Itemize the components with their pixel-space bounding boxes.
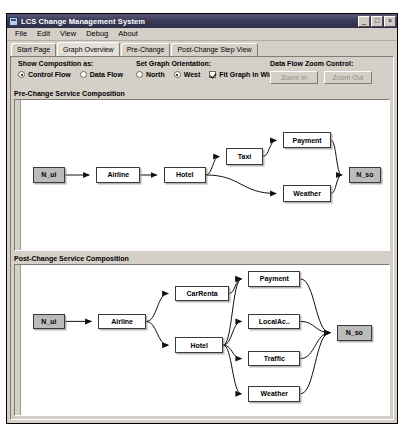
graph-edge — [300, 279, 330, 333]
app-icon — [9, 17, 18, 26]
application-window: LCS Change Management System _ □ × File … — [6, 13, 398, 424]
window-title: LCS Change Management System — [21, 17, 357, 26]
menu-item-file[interactable]: File — [10, 28, 32, 40]
graph-node-pre-hotel[interactable]: Hotel — [164, 167, 206, 183]
radio-data-flow-label: Data Flow — [90, 71, 123, 78]
composition-group: Show Composition as: Control Flow Data F… — [18, 60, 132, 78]
graph-edge — [331, 175, 341, 193]
zoom-in-button[interactable]: Zoom In — [270, 71, 318, 84]
pre-change-panel: Pre-Change Service Composition N_uiAirli… — [14, 90, 390, 251]
pre-change-graph-canvas[interactable]: N_uiAirlineHotelTaxiPaymentWeatherN_so — [21, 100, 389, 250]
graph-node-post-weather[interactable]: Weather — [248, 386, 300, 402]
pre-change-panel-title: Pre-Change Service Composition — [14, 90, 390, 97]
radio-control-flow-icon — [18, 71, 25, 78]
tab-post-change-step-view[interactable]: Post-Change Step View — [171, 43, 257, 56]
menu-item-debug[interactable]: Debug — [81, 28, 113, 40]
radio-data-flow-icon — [80, 71, 87, 78]
post-change-panel-title: Post-Change Service Composition — [14, 255, 390, 262]
graph-node-post-nso[interactable]: N_so — [337, 325, 372, 341]
graph-node-pre-taxi[interactable]: Taxi — [226, 148, 263, 164]
radio-north-label: North — [146, 71, 165, 78]
graph-edge — [206, 175, 276, 193]
zoom-out-button[interactable]: Zoom Out — [324, 71, 372, 84]
graph-node-post-airline[interactable]: Airline — [98, 314, 146, 330]
graph-edge — [300, 333, 330, 359]
post-change-graph-box: N_uiAirlineCarRentaHotelPaymentLocalAc..… — [14, 264, 390, 416]
maximize-icon: □ — [372, 16, 382, 25]
minimize-icon: _ — [359, 16, 369, 25]
tab-pre-change[interactable]: Pre-Change — [121, 43, 171, 56]
menu-item-about[interactable]: About — [113, 28, 143, 40]
graph-edge — [263, 140, 276, 156]
composition-group-label: Show Composition as: — [18, 60, 132, 67]
graph-node-pre-payment[interactable]: Payment — [283, 132, 331, 148]
minimize-button[interactable]: _ — [358, 16, 370, 27]
graph-edge — [331, 140, 341, 175]
close-icon: × — [385, 16, 395, 25]
pre-change-graph-box: N_uiAirlineHotelTaxiPaymentWeatherN_so — [14, 99, 390, 251]
menu-item-view[interactable]: View — [55, 28, 81, 40]
close-button[interactable]: × — [384, 16, 396, 27]
title-bar: LCS Change Management System _ □ × — [7, 14, 397, 28]
graph-edge — [206, 157, 219, 175]
radio-north[interactable]: North — [136, 71, 165, 78]
checkbox-fit-graph-icon — [209, 71, 216, 78]
graph-edge — [146, 321, 168, 345]
maximize-button[interactable]: □ — [371, 16, 383, 27]
graph-node-pre-nso[interactable]: N_so — [349, 167, 382, 183]
menu-bar: File Edit View Debug About — [7, 28, 397, 41]
radio-control-flow-label: Control Flow — [28, 71, 71, 78]
graph-edge — [146, 293, 168, 321]
graph-node-post-hotel[interactable]: Hotel — [175, 337, 223, 353]
graph-edge — [300, 333, 330, 394]
graph-node-post-traffic[interactable]: Traffic — [248, 351, 300, 367]
tab-start-page[interactable]: Start Page — [11, 43, 56, 56]
radio-control-flow[interactable]: Control Flow — [18, 71, 71, 78]
post-change-graph-canvas[interactable]: N_uiAirlineCarRentaHotelPaymentLocalAc..… — [21, 265, 389, 415]
graph-edge — [223, 321, 241, 345]
tab-graph-overview[interactable]: Graph Overview — [57, 42, 120, 56]
radio-west[interactable]: West — [174, 71, 201, 78]
graph-node-pre-weather[interactable]: Weather — [283, 185, 331, 201]
zoom-control-group: Data Flow Zoom Control: Zoom In Zoom Out — [270, 60, 378, 84]
radio-data-flow[interactable]: Data Flow — [80, 71, 123, 78]
graph-node-pre-nui[interactable]: N_ui — [33, 167, 66, 183]
post-change-panel: Post-Change Service Composition N_uiAirl… — [14, 255, 390, 416]
radio-west-label: West — [184, 71, 201, 78]
graph-node-post-carrental[interactable]: CarRenta — [175, 286, 229, 302]
tab-bar: Start Page Graph Overview Pre-Change Pos… — [7, 41, 397, 56]
graph-node-post-localac[interactable]: LocalAc.. — [248, 314, 300, 330]
controls-row: Show Composition as: Control Flow Data F… — [14, 60, 390, 90]
radio-north-icon — [136, 71, 143, 78]
content-panel: Show Composition as: Control Flow Data F… — [10, 56, 394, 420]
menu-item-edit[interactable]: Edit — [32, 28, 55, 40]
graph-node-post-nui[interactable]: N_ui — [33, 314, 66, 330]
graph-node-pre-airline[interactable]: Airline — [96, 167, 140, 183]
radio-west-icon — [174, 71, 181, 78]
graph-node-post-payment[interactable]: Payment — [248, 271, 300, 287]
zoom-control-label: Data Flow Zoom Control: — [270, 60, 378, 67]
